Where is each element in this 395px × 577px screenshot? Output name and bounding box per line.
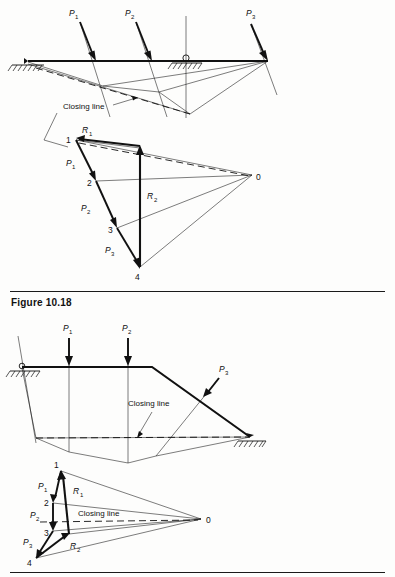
page-canvas: Closing line P 1 P 2 xyxy=(0,0,395,577)
polygon-segment-label-p1-top: P 1 xyxy=(66,158,76,170)
svg-text:R: R xyxy=(82,125,88,135)
svg-text:1: 1 xyxy=(44,487,48,493)
right-support-pin-icon-bottom xyxy=(234,433,266,447)
polygon-point-1-bottom: 1 xyxy=(54,460,59,470)
polygon-point-2-bottom: 2 xyxy=(44,498,49,508)
closing-line-label-bottom: Closing line xyxy=(128,399,170,408)
load-label-p3-bottom: P 3 xyxy=(219,364,229,376)
polygon-point-2-top: 2 xyxy=(87,178,92,188)
closing-line-label-top: Closing line xyxy=(63,102,105,111)
polygon-segment-label-p2-top: P 2 xyxy=(81,203,91,215)
svg-text:1: 1 xyxy=(80,492,84,498)
svg-text:3: 3 xyxy=(252,14,256,20)
polygon-reaction-label-r1-bottom: R 1 xyxy=(73,486,84,498)
space-diagram-bottom: Closing line P 1 P 2 xyxy=(6,323,266,463)
polygon-reaction-label-r1-top: R 1 xyxy=(82,125,93,137)
load-label-p2-bottom: P 2 xyxy=(122,323,132,335)
closing-line-leader-bottom xyxy=(137,412,152,438)
figure-caption: Figure 10.18 xyxy=(11,297,72,308)
polygon-segment-label-p2-bottom: P 2 xyxy=(30,510,40,522)
polygon-reaction-label-r2-top: R 2 xyxy=(147,191,158,203)
polygon-segment-label-p3-top: P 3 xyxy=(105,245,115,257)
polygon-point-1-top: 1 xyxy=(66,135,71,145)
svg-text:2: 2 xyxy=(36,516,40,522)
polygon-segment-label-p3-bottom: P 3 xyxy=(23,537,33,549)
svg-text:1: 1 xyxy=(89,131,93,137)
load-label-p2: P 2 xyxy=(125,8,135,20)
svg-text:3: 3 xyxy=(29,543,33,549)
closing-line-leader-polygon-top xyxy=(44,113,68,147)
load-label-p1: P 1 xyxy=(69,8,79,20)
svg-text:2: 2 xyxy=(131,14,135,20)
svg-text:1: 1 xyxy=(72,164,76,170)
load-label-p3: P 3 xyxy=(246,8,256,20)
svg-text:R: R xyxy=(73,486,79,496)
force-polygon-bottom: 1 2 3 4 0 P 1 P 2 P 3 R 1 xyxy=(23,460,211,568)
reaction-vector-r2 xyxy=(136,145,144,267)
reaction-vector-r1-bottom xyxy=(57,470,69,534)
divider-rule-top xyxy=(10,291,385,292)
polygon-point-4-bottom: 4 xyxy=(27,558,32,568)
polygon-reaction-label-r2-bottom: R 2 xyxy=(70,541,81,553)
force-polygon-top: 1 2 3 4 0 P 1 P 2 P 3 R 1 xyxy=(44,113,261,282)
closing-line-label-polygon-bottom: Closing line xyxy=(78,509,120,518)
polygon-point-3-bottom: 3 xyxy=(44,528,49,538)
load-arrow-p3 xyxy=(251,24,268,61)
polar-rays-top xyxy=(76,140,252,267)
polygon-point-4-top: 4 xyxy=(135,272,140,282)
polygon-segment-label-p1-bottom: P 1 xyxy=(38,481,48,493)
polygon-point-3-top: 3 xyxy=(108,225,113,235)
svg-text:R: R xyxy=(70,541,76,551)
svg-text:R: R xyxy=(147,191,153,201)
polygon-pole-0-top: 0 xyxy=(256,172,261,182)
figure-top-graphic-statics: Closing line P 1 P 2 xyxy=(0,0,395,290)
load-label-p1-bottom: P 1 xyxy=(63,323,73,335)
svg-text:2: 2 xyxy=(87,209,91,215)
space-diagram-top: Closing line P 1 P 2 xyxy=(8,8,277,118)
svg-text:3: 3 xyxy=(111,251,115,257)
closing-line-leader-top xyxy=(113,96,138,105)
load-action-lines-top xyxy=(80,22,277,117)
construction-lines-bottom xyxy=(18,336,219,463)
load-arrow-p1 xyxy=(80,22,96,61)
svg-text:2: 2 xyxy=(77,547,81,553)
load-arrow-p2 xyxy=(136,22,152,61)
polygon-pole-0-bottom: 0 xyxy=(206,515,211,525)
load-arrow-p1-bottom xyxy=(65,338,73,366)
load-arrow-p3-bottom xyxy=(203,378,219,397)
figure-bottom-graphic-statics: Closing line P 1 P 2 xyxy=(0,310,395,577)
divider-rule-bottom xyxy=(10,572,385,573)
svg-text:2: 2 xyxy=(128,329,132,335)
svg-text:3: 3 xyxy=(225,370,229,376)
svg-text:2: 2 xyxy=(154,197,158,203)
load-arrow-p2-bottom xyxy=(124,338,132,366)
svg-text:1: 1 xyxy=(69,329,73,335)
closing-line-dashed-top xyxy=(36,68,190,114)
svg-text:1: 1 xyxy=(75,14,79,20)
closing-ray-dashed-top xyxy=(79,143,250,176)
